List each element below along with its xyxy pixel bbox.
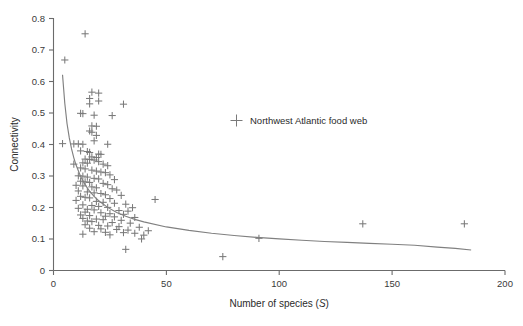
- legend-label-northwest-atlantic-food-web: Northwest Atlantic food web: [250, 115, 367, 126]
- data-point-marker: [102, 191, 109, 198]
- chart-figure: 0 0.1 0.2 0.3 0.4 0.5 0.6 0.7 0.8 0 50 1…: [0, 0, 523, 326]
- data-point-marker: [106, 195, 113, 202]
- data-point-marker: [79, 201, 86, 208]
- data-point-marker: [59, 140, 66, 147]
- data-point-marker: [77, 147, 84, 154]
- data-point-marker: [86, 225, 93, 232]
- x-axis-ticks: [54, 271, 506, 276]
- data-point-marker: [61, 56, 68, 63]
- data-point-marker: [129, 204, 136, 211]
- x-tick-label-100: 100: [271, 278, 287, 289]
- data-point-marker: [95, 175, 102, 182]
- data-point-marker: [104, 222, 111, 229]
- data-point-marker: [72, 197, 79, 204]
- x-tick-label-50: 50: [161, 278, 172, 289]
- y-tick-label-0.2: 0.2: [32, 202, 45, 213]
- x-axis-title-plain: Number of species (: [229, 298, 319, 309]
- data-point-marker: [122, 201, 129, 208]
- legend-marker-icon: [231, 115, 243, 127]
- data-point-marker: [255, 235, 262, 242]
- y-tick-label-0.6: 0.6: [32, 76, 45, 87]
- data-point-marker: [122, 246, 129, 253]
- x-tick-label-150: 150: [384, 278, 400, 289]
- y-tick-label-0.1: 0.1: [32, 233, 45, 244]
- y-tick-label-0.3: 0.3: [32, 170, 45, 181]
- data-point-marker: [97, 190, 104, 197]
- data-point-marker: [104, 162, 111, 169]
- data-point-marker: [91, 175, 98, 182]
- data-point-marker: [136, 224, 143, 231]
- y-tick-label-0.4: 0.4: [32, 139, 45, 150]
- data-point-marker: [93, 123, 100, 130]
- data-point-marker: [82, 30, 89, 37]
- y-axis-title: Connectivity: [9, 117, 20, 171]
- data-point-markers: [59, 30, 468, 260]
- data-point-marker: [75, 205, 82, 212]
- data-point-marker: [104, 141, 111, 148]
- data-point-marker: [86, 100, 93, 107]
- y-tick-label-0: 0: [40, 265, 45, 276]
- data-point-marker: [91, 112, 98, 119]
- data-point-marker: [79, 141, 86, 148]
- x-tick-label-0: 0: [51, 278, 56, 289]
- data-point-marker: [88, 167, 95, 174]
- data-point-marker: [145, 227, 152, 234]
- data-point-marker: [95, 90, 102, 97]
- data-point-marker: [100, 180, 107, 187]
- data-point-marker: [88, 89, 95, 96]
- x-axis-tick-labels: 0 50 100 150 200: [51, 278, 513, 289]
- data-point-marker: [124, 208, 131, 215]
- x-tick-label-200: 200: [497, 278, 513, 289]
- legend: Northwest Atlantic food web: [231, 115, 368, 127]
- x-axis-title: Number of species (S): [229, 298, 329, 309]
- data-point-marker: [109, 112, 116, 119]
- data-point-marker: [113, 186, 120, 193]
- data-point-marker: [219, 253, 226, 260]
- data-point-marker: [111, 200, 118, 207]
- y-tick-label-0.8: 0.8: [32, 13, 45, 24]
- y-axis-ticks: [49, 19, 54, 271]
- data-point-marker: [95, 97, 102, 104]
- y-axis-tick-labels: 0 0.1 0.2 0.3 0.4 0.5 0.6 0.7 0.8: [32, 13, 45, 276]
- data-point-marker: [97, 209, 104, 216]
- data-point-marker: [79, 231, 86, 238]
- data-point-marker: [111, 176, 118, 183]
- scatter-plot-canvas: 0 0.1 0.2 0.3 0.4 0.5 0.6 0.7 0.8 0 50 1…: [0, 0, 523, 326]
- data-point-marker: [151, 196, 158, 203]
- data-point-marker: [127, 220, 134, 227]
- data-point-marker: [93, 167, 100, 174]
- x-axis-title-close: ): [326, 298, 329, 309]
- data-point-marker: [461, 220, 468, 227]
- data-point-marker: [120, 101, 127, 108]
- data-point-marker: [104, 181, 111, 188]
- data-point-marker: [91, 228, 98, 235]
- data-point-marker: [97, 168, 104, 175]
- data-point-marker: [131, 230, 138, 237]
- data-point-marker: [118, 192, 125, 199]
- y-tick-label-0.7: 0.7: [32, 44, 45, 55]
- y-tick-label-0.5: 0.5: [32, 107, 45, 118]
- data-point-marker: [109, 185, 116, 192]
- data-point-marker: [359, 220, 366, 227]
